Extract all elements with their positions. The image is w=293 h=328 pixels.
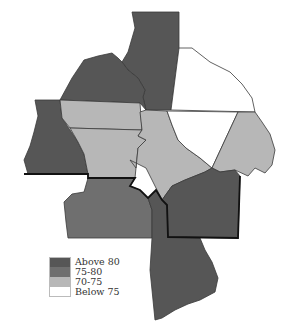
legend-swatch: [49, 267, 71, 277]
region-northeast: [171, 48, 255, 112]
legend-swatch: [49, 287, 71, 297]
region-southwest: [64, 178, 152, 238]
legend-label: Below 75: [75, 287, 120, 297]
region-center-west-upper: [60, 100, 142, 130]
legend-swatch: [49, 277, 71, 287]
legend-swatch: [49, 257, 71, 267]
legend-item-below-75: Below 75: [49, 287, 120, 297]
map-legend: Above 80 75-80 70-75 Below 75: [49, 257, 120, 297]
choropleth-map: [0, 0, 293, 328]
